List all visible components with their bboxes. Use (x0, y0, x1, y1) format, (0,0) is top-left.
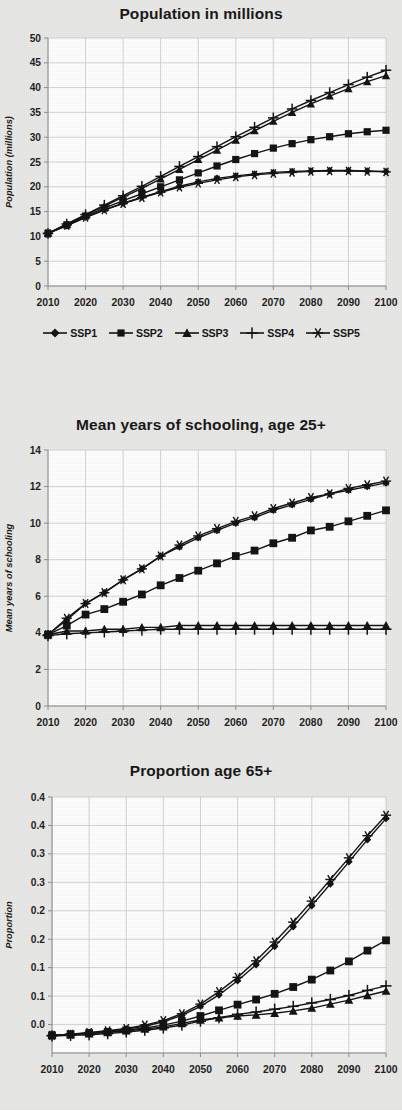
plot-wrap: 5045403530252015105020102020203020402050… (0, 28, 402, 320)
square-marker (271, 990, 279, 998)
y-tick-label: 2 (35, 664, 41, 675)
legend-marker (174, 326, 200, 340)
legend-label: SSP2 (136, 327, 163, 339)
square-marker (213, 559, 221, 567)
y-tick-label: 12 (30, 481, 42, 492)
square-marker (326, 967, 334, 975)
square-marker (252, 996, 260, 1004)
plot-area: 5045403530252015105020102020203020402050… (0, 28, 402, 320)
square-marker (307, 136, 314, 143)
x-tick-label: 2010 (36, 717, 59, 728)
y-tick-label: 0.4 (31, 792, 45, 803)
plot-background (48, 450, 386, 706)
legend-item-SSP3[interactable]: SSP3 (174, 326, 229, 340)
y-axis-title: Mean years of schooling (4, 523, 14, 632)
y-tick-label: 6 (35, 591, 41, 602)
square-marker (363, 512, 371, 520)
square-marker (195, 169, 202, 176)
square-marker (234, 1001, 242, 1009)
chart-panel-proportion65: Proportion age 65+0.40.40.30.30.20.20.10… (0, 755, 402, 1087)
square-marker (345, 958, 353, 966)
x-tick-label: 2070 (263, 1064, 286, 1075)
y-tick-label: 30 (30, 132, 42, 143)
legend-marker (42, 326, 68, 340)
square-marker (307, 527, 315, 535)
square-marker (194, 567, 202, 575)
y-tick-label: 35 (30, 107, 42, 118)
square-marker (232, 552, 240, 560)
plot-wrap: 0.40.40.30.30.20.20.10.10.02010202020302… (0, 787, 402, 1087)
y-tick-label: 25 (30, 157, 42, 168)
square-marker (251, 150, 258, 157)
x-tick-label: 2030 (112, 717, 135, 728)
y-tick-label: 50 (30, 33, 42, 44)
square-marker (251, 547, 259, 555)
x-tick-label: 2050 (187, 717, 210, 728)
square-marker (345, 517, 353, 525)
square-marker (119, 598, 127, 606)
y-tick-label: 15 (30, 206, 42, 217)
y-tick-label: 0.2 (31, 905, 45, 916)
y-tick-label: 0.0 (31, 1019, 45, 1030)
x-tick-label: 2080 (299, 297, 322, 308)
x-tick-label: 2100 (374, 717, 397, 728)
chart-panel-schooling: Mean years of schooling, age 25+14121086… (0, 410, 402, 740)
chart-panel-population: Population in millions504540353025201510… (0, 0, 402, 346)
y-tick-label: 20 (30, 181, 42, 192)
chart-title: Mean years of schooling, age 25+ (0, 410, 402, 440)
legend-item-SSP2[interactable]: SSP2 (108, 326, 163, 340)
x-tick-label: 2040 (152, 1064, 175, 1075)
square-marker (308, 976, 316, 984)
y-tick-label: 0.2 (31, 934, 45, 945)
y-tick-label: 0 (35, 701, 41, 712)
square-marker (232, 156, 239, 163)
x-tick-label: 2020 (74, 297, 97, 308)
x-tick-label: 2080 (300, 1064, 323, 1075)
y-tick-label: 10 (30, 518, 42, 529)
square-marker (138, 591, 146, 599)
x-tick-label: 2070 (262, 297, 285, 308)
square-marker (117, 329, 124, 336)
legend-item-SSP4[interactable]: SSP4 (239, 326, 294, 340)
x-tick-label: 2020 (74, 717, 97, 728)
legend-item-SSP5[interactable]: SSP5 (305, 326, 360, 340)
square-marker (269, 539, 277, 547)
chart-title: Proportion age 65+ (0, 755, 402, 787)
legend-label: SSP4 (267, 327, 294, 339)
y-axis-title: Proportion (4, 901, 14, 949)
square-marker (82, 611, 90, 619)
square-marker (382, 127, 389, 134)
legend-label: SSP1 (70, 327, 97, 339)
y-tick-label: 0.3 (31, 877, 45, 888)
x-tick-label: 2050 (189, 1064, 212, 1075)
x-tick-label: 2030 (112, 297, 135, 308)
legend-label: SSP5 (333, 327, 360, 339)
legend-label: SSP3 (202, 327, 229, 339)
legend-item-SSP1[interactable]: SSP1 (42, 326, 97, 340)
square-marker (364, 128, 371, 135)
square-marker (157, 581, 165, 589)
square-marker (157, 183, 164, 190)
square-marker (326, 133, 333, 140)
x-tick-label: 2080 (299, 717, 322, 728)
square-marker (345, 130, 352, 137)
x-tick-label: 2060 (224, 717, 247, 728)
chart-title: Population in millions (0, 0, 402, 28)
x-tick-label: 2060 (224, 297, 247, 308)
y-tick-label: 0.1 (31, 962, 45, 973)
plot-area: 0.40.40.30.30.20.20.10.10.02010202020302… (0, 787, 402, 1087)
y-tick-label: 0.4 (31, 820, 45, 831)
square-marker (382, 506, 390, 514)
square-marker (176, 574, 184, 582)
plot-area: 1412108642020102020203020402050206020702… (0, 440, 402, 740)
x-tick-label: 2010 (36, 297, 59, 308)
square-marker (289, 983, 297, 991)
square-marker (270, 145, 277, 152)
square-marker (326, 523, 334, 531)
square-marker (176, 176, 183, 183)
x-tick-label: 2100 (374, 297, 397, 308)
x-tick-label: 2020 (78, 1064, 101, 1075)
legend-marker (305, 326, 331, 340)
square-marker (364, 947, 372, 955)
x-tick-label: 2070 (262, 717, 285, 728)
